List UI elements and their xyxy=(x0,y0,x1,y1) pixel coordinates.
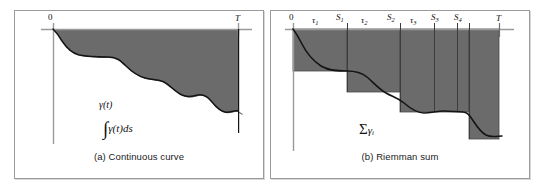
axis-label-tau-1: τ1 xyxy=(312,15,318,25)
panel-a-caption: (a) Continuous curve xyxy=(15,151,263,162)
axis-label-s-3-text: S xyxy=(431,12,436,22)
riemann-bars xyxy=(293,29,499,139)
axis-label-origin-text: 0 xyxy=(289,12,294,22)
panel-riemann-sum: 0 τ1 S1 τ2 S2 τ3 S3 S4 T Σγi (b) Riemman… xyxy=(270,10,530,179)
axis-label-tau-3: τ3 xyxy=(410,15,416,25)
area-under-curve-fill xyxy=(53,29,239,133)
axis-label-end-text: T xyxy=(496,13,501,23)
axis-label-origin: 0 xyxy=(48,12,53,22)
axis-label-s-2-sub: 2 xyxy=(392,16,395,23)
curve-label-gamma-text: γ(t) xyxy=(99,99,112,110)
axis-label-end: T xyxy=(235,13,240,23)
axis-label-tau-2-sub: 2 xyxy=(364,19,367,26)
figure-root: 0 T γ(t) ∫γ(t)ds (a) Continuous curve xyxy=(0,0,543,188)
panel-b-caption: (b) Riemman sum xyxy=(271,151,529,162)
axis-label-s-4-text: S xyxy=(454,12,459,22)
integral-annotation: ∫γ(t)ds xyxy=(103,115,133,137)
axis-label-end: T xyxy=(496,13,501,23)
axis-label-s-4-sub: 4 xyxy=(459,16,462,23)
axis-label-tau-2: τ2 xyxy=(361,15,367,25)
axis-label-s-4: S4 xyxy=(454,12,462,22)
axis-label-s-1-sub: 1 xyxy=(341,16,344,23)
axis-label-tau-3-sub: 3 xyxy=(413,19,416,26)
axis-label-s-1-text: S xyxy=(336,12,341,22)
integral-icon: ∫ xyxy=(103,118,108,139)
axis-label-s-3: S3 xyxy=(431,12,439,22)
integral-body: γ(t)ds xyxy=(108,122,133,134)
axis-label-s-2-text: S xyxy=(387,12,392,22)
curve-label-gamma: γ(t) xyxy=(99,99,112,110)
axis-label-origin: 0 xyxy=(289,12,294,22)
sigma-icon: Σ xyxy=(359,121,368,137)
panel-continuous-curve: 0 T γ(t) ∫γ(t)ds (a) Continuous curve xyxy=(14,10,264,179)
axis-label-tau-1-sub: 1 xyxy=(315,19,318,26)
sum-subscript: i xyxy=(372,129,374,137)
axis-label-s-2: S2 xyxy=(387,12,395,22)
riemann-sum-annotation: Σγi xyxy=(359,121,374,138)
axis-label-s-1: S1 xyxy=(336,12,344,22)
axis-label-s-3-sub: 3 xyxy=(436,16,439,23)
